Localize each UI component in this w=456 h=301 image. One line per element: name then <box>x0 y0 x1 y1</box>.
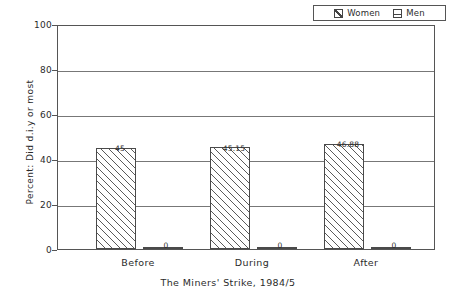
bar-value-men-before: 0 <box>164 241 169 250</box>
x-tick-label-after: After <box>354 257 379 268</box>
legend-entry-women: Women <box>334 8 380 18</box>
bar-women-before <box>96 148 136 249</box>
x-tick-label-during: During <box>235 257 269 268</box>
legend-entry-men: Men <box>393 8 425 18</box>
bar-chart: Women Men 100 80 60 40 20 0 Percent: Did… <box>0 0 456 301</box>
y-axis-title: Percent: Did d.i.y or most <box>25 42 35 242</box>
y-tick-label-0: 0 <box>12 245 52 255</box>
bar-value-men-after: 0 <box>392 241 397 250</box>
horizontal-hatch-swatch-icon <box>393 9 402 18</box>
diagonal-hatch-swatch-icon <box>334 9 343 18</box>
chart-legend: Women Men <box>313 5 446 21</box>
gridline-60 <box>58 116 434 117</box>
legend-label-men: Men <box>406 8 425 18</box>
bar-value-women-during: 45.15 <box>223 144 245 153</box>
legend-label-women: Women <box>347 8 380 18</box>
x-tick-label-before: Before <box>121 257 154 268</box>
y-tick-label-100: 100 <box>12 20 52 30</box>
bar-value-women-before: 45 <box>115 144 125 153</box>
bar-value-men-during: 0 <box>278 241 283 250</box>
gridline-80 <box>58 71 434 72</box>
bar-women-after <box>324 144 364 250</box>
bar-women-during <box>210 147 250 249</box>
x-axis-title: The Miners' Strike, 1984/5 <box>0 277 456 288</box>
plot-area: 45 0 45.15 0 46.88 0 <box>57 25 435 250</box>
bar-value-women-after: 46.88 <box>337 140 359 149</box>
